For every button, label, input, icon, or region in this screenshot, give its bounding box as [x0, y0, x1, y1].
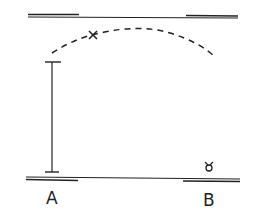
- b-symbol-icon: [205, 162, 213, 171]
- diagram-canvas: A B: [0, 0, 257, 218]
- vertical-measure-bar: [45, 62, 61, 172]
- label-a: A: [46, 188, 58, 208]
- label-b: B: [203, 190, 215, 210]
- dashed-trajectory-arc: [52, 29, 216, 59]
- cross-marker-icon: [89, 31, 97, 39]
- top-plate: [28, 15, 238, 19]
- bottom-plate: [26, 177, 240, 182]
